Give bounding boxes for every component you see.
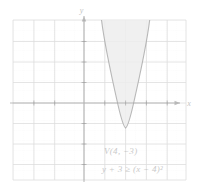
vertex-annotation: V(4, −3) bbox=[104, 146, 137, 156]
x-axis-label: x bbox=[186, 99, 191, 108]
coordinate-plane-svg: y x V(4, −3) y + 3 ≥ (x − 4)² bbox=[0, 0, 205, 195]
minor-grid bbox=[13, 20, 186, 180]
y-axis-arrow bbox=[82, 16, 86, 22]
graph-figure: y x V(4, −3) y + 3 ≥ (x − 4)² bbox=[0, 0, 205, 195]
inequality-annotation: y + 3 ≥ (x − 4)² bbox=[101, 164, 163, 174]
y-axis-label: y bbox=[79, 6, 84, 15]
